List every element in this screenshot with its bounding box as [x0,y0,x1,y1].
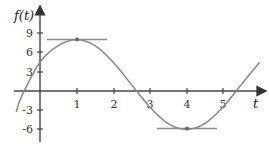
y-axis-title: f(t) [13,8,34,23]
y-tick-label: 9 [26,27,33,40]
max-point [75,38,79,42]
y-tick-label: -3 [22,104,33,117]
chart: 1 2 3 4 5 9 6 3 -3 -6 f(t) t [0,0,269,148]
x-tick-label: 2 [111,98,118,111]
x-axis-title: t [253,96,259,111]
y-tick-label: -6 [22,123,33,136]
function-curve [16,40,259,130]
x-tick-label: 1 [74,98,81,111]
min-point [185,127,189,131]
y-tick-label: 6 [26,46,33,59]
x-tick-label: 4 [184,98,191,111]
